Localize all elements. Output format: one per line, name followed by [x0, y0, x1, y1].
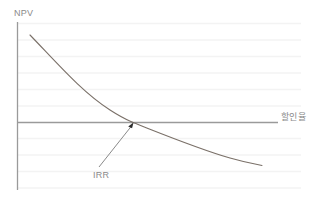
irr-callout-arrow	[99, 123, 134, 168]
gridlines	[17, 24, 301, 189]
irr-annotation-label: IRR	[93, 170, 109, 180]
chart-canvas	[0, 0, 314, 202]
y-axis-label: NPV	[14, 8, 33, 18]
npv-curve	[30, 35, 262, 166]
arrow-up-right-icon	[128, 123, 133, 129]
npv-irr-chart-figure: NPV 할인율 IRR	[0, 0, 314, 202]
x-axis-label: 할인율	[281, 112, 306, 122]
